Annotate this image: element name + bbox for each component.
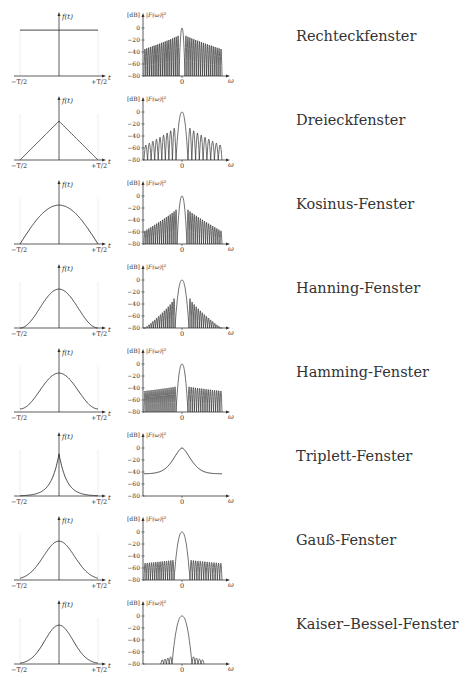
- spectrum-plot: 0−20−40−60−800ω[dB]|F(ω)|²: [125, 420, 235, 505]
- window-name-label: Hamming-Fenster: [296, 364, 429, 380]
- y-tick-label: 0: [136, 612, 140, 619]
- spectrum-curve: [144, 448, 222, 474]
- y-tick-label: −80: [127, 408, 140, 415]
- time-plot: f(t)−T/2+T/2t: [0, 252, 125, 337]
- t-axis-label: t: [108, 158, 111, 166]
- y-tick-label: −60: [127, 144, 140, 151]
- f-axis-label: f(t): [61, 265, 73, 273]
- spectrum-plot: 0−20−40−60−800ω[dB]|F(ω)|²: [125, 84, 235, 169]
- t-axis-label: t: [108, 494, 111, 502]
- f-axis-label: f(t): [61, 97, 73, 105]
- time-plot: f(t)−T/2+T/2t: [0, 504, 125, 589]
- spectrum-ylabel: |F(ω)|²: [146, 515, 167, 523]
- db-unit-label: [dB]: [127, 179, 140, 186]
- y-tick-label: −20: [127, 288, 140, 295]
- y-tick-label: −20: [127, 624, 140, 631]
- y-tick-label: −80: [127, 576, 140, 583]
- time-plot: f(t)−T/2+T/2t: [0, 0, 125, 85]
- spectrum-ylabel: |F(ω)|²: [146, 179, 167, 187]
- y-tick-label: 0: [136, 276, 140, 283]
- window-row: f(t)−T/2+T/2t0−20−40−60−800ω[dB]|F(ω)|²K…: [0, 588, 429, 673]
- y-tick-label: 0: [136, 108, 140, 115]
- arrow-icon: [58, 432, 61, 436]
- f-axis-label: f(t): [61, 349, 73, 357]
- y-tick-label: −40: [127, 468, 140, 475]
- y-tick-label: −60: [127, 60, 140, 67]
- time-plot: f(t)−T/2+T/2t: [0, 420, 125, 505]
- spectrum-plot: 0−20−40−60−800ω[dB]|F(ω)|²: [125, 168, 235, 253]
- spectrum-curve: [144, 280, 222, 328]
- db-unit-label: [dB]: [127, 95, 140, 102]
- y-tick-label: −40: [127, 552, 140, 559]
- y-tick-label: −60: [127, 564, 140, 571]
- arrow-icon: [142, 517, 145, 521]
- y-tick-label: −60: [127, 228, 140, 235]
- spectrum-ylabel: |F(ω)|²: [146, 599, 167, 607]
- y-tick-label: 0: [136, 528, 140, 535]
- time-plot: f(t)−T/2+T/2t: [0, 336, 125, 421]
- arrow-icon: [58, 12, 61, 16]
- window-row: f(t)−T/2+T/2t0−20−40−60−800ω[dB]|F(ω)|²H…: [0, 336, 429, 421]
- y-tick-label: −80: [127, 240, 140, 247]
- window-row: f(t)−T/2+T/2t0−20−40−60−800ω[dB]|F(ω)|²G…: [0, 504, 429, 589]
- arrow-icon: [142, 13, 145, 17]
- window-name-label: Gauß-Fenster: [296, 532, 396, 548]
- db-unit-label: [dB]: [127, 515, 140, 522]
- spectrum-ylabel: |F(ω)|²: [146, 263, 167, 271]
- arrow-icon: [142, 97, 145, 101]
- window-row: f(t)−T/2+T/2t0−20−40−60−800ω[dB]|F(ω)|²R…: [0, 0, 429, 85]
- window-row: f(t)−T/2+T/2t0−20−40−60−800ω[dB]|F(ω)|²H…: [0, 252, 429, 337]
- f-axis-label: f(t): [61, 181, 73, 189]
- time-plot: f(t)−T/2+T/2t: [0, 588, 125, 673]
- right-tick-label: +T/2: [91, 666, 107, 673]
- arrow-icon: [142, 433, 145, 437]
- spectrum-plot: 0−20−40−60−800ω[dB]|F(ω)|²: [125, 588, 235, 673]
- window-name-label: Dreieckfenster: [296, 112, 405, 128]
- y-tick-label: −20: [127, 456, 140, 463]
- arrow-icon: [58, 516, 61, 520]
- t-axis-label: t: [108, 74, 111, 82]
- arrow-icon: [58, 96, 61, 100]
- f-axis-label: f(t): [61, 13, 73, 21]
- x-tick-label: 0: [180, 666, 184, 673]
- spectrum-curve: [144, 364, 222, 412]
- y-tick-label: −60: [127, 480, 140, 487]
- y-tick-label: −60: [127, 648, 140, 655]
- t-axis-label: t: [108, 578, 111, 586]
- arrow-icon: [58, 600, 61, 604]
- db-unit-label: [dB]: [127, 263, 140, 270]
- f-axis-label: f(t): [61, 517, 73, 525]
- db-unit-label: [dB]: [127, 347, 140, 354]
- spectrum-curve: [144, 532, 222, 580]
- f-axis-label: f(t): [61, 433, 73, 441]
- y-tick-label: −40: [127, 216, 140, 223]
- y-tick-label: −80: [127, 156, 140, 163]
- y-tick-label: 0: [136, 360, 140, 367]
- arrow-icon: [142, 349, 145, 353]
- y-tick-label: −20: [127, 372, 140, 379]
- spectrum-curve: [161, 616, 204, 664]
- window-row: f(t)−T/2+T/2t0−20−40−60−800ω[dB]|F(ω)|²D…: [0, 84, 429, 169]
- window-name-label: Triplett-Fenster: [296, 448, 412, 464]
- spectrum-plot: 0−20−40−60−800ω[dB]|F(ω)|²: [125, 0, 235, 85]
- spectrum-plot: 0−20−40−60−800ω[dB]|F(ω)|²: [125, 336, 235, 421]
- db-unit-label: [dB]: [127, 599, 140, 606]
- arrow-icon: [58, 264, 61, 268]
- db-unit-label: [dB]: [127, 431, 140, 438]
- db-unit-label: [dB]: [127, 11, 140, 18]
- window-name-label: Kaiser–Bessel-Fenster: [296, 616, 459, 632]
- y-tick-label: 0: [136, 24, 140, 31]
- y-tick-label: −80: [127, 72, 140, 79]
- window-name-label: Kosinus-Fenster: [296, 196, 414, 212]
- y-tick-label: −40: [127, 48, 140, 55]
- y-tick-label: −20: [127, 120, 140, 127]
- arrow-icon: [142, 601, 145, 605]
- window-row: f(t)−T/2+T/2t0−20−40−60−800ω[dB]|F(ω)|²T…: [0, 420, 429, 505]
- spectrum-ylabel: |F(ω)|²: [146, 347, 167, 355]
- arrow-icon: [58, 348, 61, 352]
- y-tick-label: 0: [136, 192, 140, 199]
- window-row: f(t)−T/2+T/2t0−20−40−60−800ω[dB]|F(ω)|²K…: [0, 168, 429, 253]
- y-tick-label: −20: [127, 36, 140, 43]
- y-tick-label: −20: [127, 204, 140, 211]
- spectrum-ylabel: |F(ω)|²: [146, 431, 167, 439]
